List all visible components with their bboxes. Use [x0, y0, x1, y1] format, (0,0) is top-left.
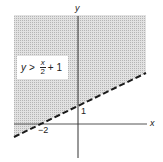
- frac-den: 2: [41, 68, 45, 76]
- x-intercept-label: −2: [38, 125, 48, 135]
- inequality-label: y > x 2 + 1: [17, 56, 68, 79]
- y-axis-label: y: [75, 3, 80, 13]
- y-intercept-label: 1: [81, 106, 86, 116]
- graph-canvas: [0, 0, 163, 162]
- ineq-lhs: y: [21, 62, 26, 73]
- x-axis-label: x: [150, 118, 155, 128]
- ineq-fraction: x 2: [40, 59, 46, 76]
- ineq-op: >: [29, 62, 35, 73]
- ineq-rest: + 1: [48, 62, 62, 73]
